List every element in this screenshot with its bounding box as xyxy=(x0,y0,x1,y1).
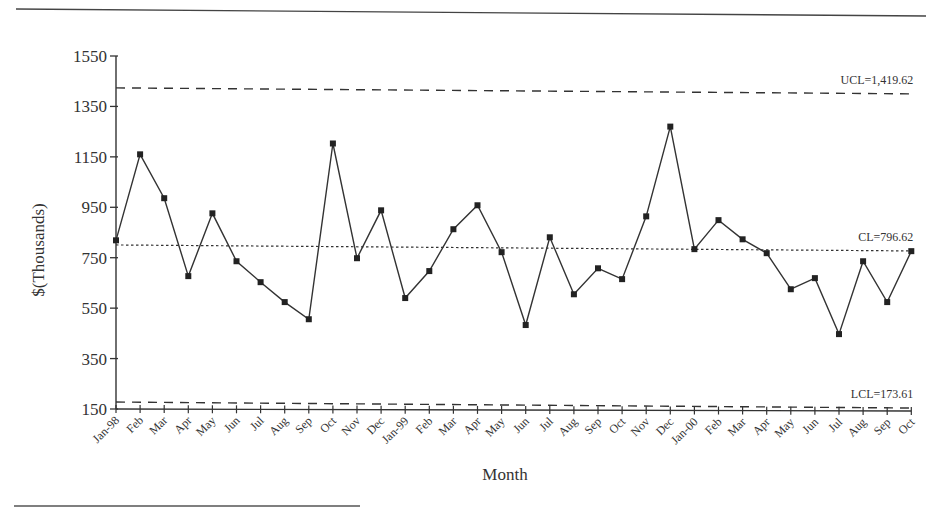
data-point-marker xyxy=(571,291,577,297)
x-tick-label: Sep xyxy=(871,415,894,438)
data-point-marker xyxy=(884,299,890,305)
data-point-marker xyxy=(475,202,481,208)
y-axis: 150350550750950115013501550 xyxy=(73,47,118,419)
data-point-marker xyxy=(860,258,866,264)
x-tick-label: Apr xyxy=(750,415,773,438)
cl-line xyxy=(116,245,915,251)
x-tick-label: Feb xyxy=(702,415,725,438)
x-tick-label: Mar xyxy=(725,415,749,439)
y-tick-label: 150 xyxy=(82,400,108,419)
data-point-marker xyxy=(764,250,770,256)
data-point-marker xyxy=(426,268,432,274)
x-tick-label: Mar xyxy=(435,414,459,438)
y-tick-label: 1550 xyxy=(73,47,107,66)
data-point-marker xyxy=(691,246,697,252)
x-tick-label: Nov xyxy=(339,414,364,439)
control-limits: UCL=1,419.62CL=796.62LCL=173.61 xyxy=(116,73,915,408)
data-point-marker xyxy=(354,255,360,261)
x-axis: Jan-98FebMarAprMayJunJulAugSepOctNovDecJ… xyxy=(90,405,918,447)
x-tick-label: May xyxy=(771,415,796,440)
data-point-marker xyxy=(716,217,722,223)
data-point-marker xyxy=(812,275,818,281)
data-point-marker xyxy=(788,286,794,292)
x-tick-label: Aug xyxy=(266,414,291,439)
data-point-marker xyxy=(137,151,143,157)
x-tick-label: Jan-99 xyxy=(379,414,412,447)
data-point-marker xyxy=(330,140,336,146)
y-tick-label: 750 xyxy=(82,249,108,268)
x-tick-label: Feb xyxy=(124,413,147,436)
x-axis-line xyxy=(116,409,911,411)
data-point-marker xyxy=(402,295,408,301)
x-axis-title: Month xyxy=(482,465,528,484)
x-tick-label: Sep xyxy=(292,414,315,437)
data-point-marker xyxy=(282,299,288,305)
data-point-marker xyxy=(113,237,119,243)
data-point-marker xyxy=(740,236,746,242)
data-point-marker xyxy=(209,210,215,216)
control-chart: 150350550750950115013501550 Jan-98FebMar… xyxy=(0,0,948,507)
data-point-marker xyxy=(234,258,240,264)
x-tick-label: Oct xyxy=(895,415,918,438)
x-tick-label: Jul xyxy=(825,415,845,435)
x-tick-label: Oct xyxy=(317,413,340,436)
data-series xyxy=(113,124,914,338)
x-tick-label: Nov xyxy=(628,415,653,440)
y-tick-label: 950 xyxy=(82,198,108,217)
y-tick-label: 1150 xyxy=(74,148,107,167)
data-point-marker xyxy=(619,276,625,282)
data-point-marker xyxy=(643,213,649,219)
x-tick-label: Oct xyxy=(606,414,629,437)
data-point-marker xyxy=(450,226,456,232)
x-tick-label: May xyxy=(193,413,218,438)
lcl-line xyxy=(116,402,915,408)
x-tick-label: Feb xyxy=(413,414,436,437)
x-tick-label: Apr xyxy=(171,413,194,436)
data-point-marker xyxy=(667,124,673,130)
x-tick-label: Jan-00 xyxy=(668,415,701,448)
data-point-marker xyxy=(499,249,505,255)
data-point-marker xyxy=(547,234,553,240)
y-tick-label: 550 xyxy=(82,299,108,318)
data-point-marker xyxy=(595,265,601,271)
series-line xyxy=(116,127,911,335)
x-tick-label: Apr xyxy=(461,414,484,437)
y-tick-label: 1350 xyxy=(73,97,107,116)
data-point-marker xyxy=(836,331,842,337)
x-tick-label: May xyxy=(482,414,507,439)
x-tick-label: Aug xyxy=(556,414,581,439)
x-tick-label: Jun xyxy=(799,415,821,437)
x-tick-label: Jul xyxy=(247,413,267,433)
x-tick-label: Mar xyxy=(146,413,170,437)
data-point-marker xyxy=(306,316,312,322)
y-tick-label: 350 xyxy=(82,350,108,369)
cl-label: CL=796.62 xyxy=(858,230,913,244)
data-point-marker xyxy=(908,248,914,254)
data-point-marker xyxy=(185,273,191,279)
data-point-marker xyxy=(523,322,529,328)
data-point-marker xyxy=(258,279,264,285)
ucl-line xyxy=(116,88,915,94)
data-point-marker xyxy=(378,207,384,213)
y-axis-title: $(Thousands) xyxy=(29,203,48,296)
x-tick-label: Jul xyxy=(536,414,556,434)
ucl-label: UCL=1,419.62 xyxy=(841,73,914,87)
lcl-label: LCL=173.61 xyxy=(851,387,913,401)
x-tick-label: Aug xyxy=(845,415,870,440)
x-tick-label: Jun xyxy=(221,414,243,436)
data-point-marker xyxy=(161,195,167,201)
top-rule xyxy=(16,9,926,16)
x-tick-label: Jun xyxy=(510,414,532,436)
x-tick-label: Sep xyxy=(581,414,604,437)
